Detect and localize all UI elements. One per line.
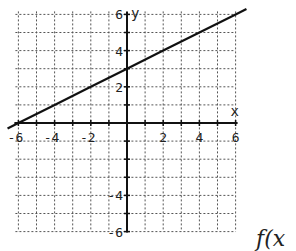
- x-tick-label: -6: [8, 130, 24, 145]
- y-tick-label: 2: [115, 80, 123, 95]
- grid-lines: [15, 11, 235, 231]
- coordinate-plane: -6-4-2246642-4-6yx: [0, 0, 296, 251]
- x-tick-label: 4: [195, 130, 203, 145]
- x-tick-label: -4: [44, 130, 60, 145]
- y-tick-label: 4: [115, 44, 123, 59]
- y-tick-label: 6: [115, 7, 123, 22]
- x-tick-label: 2: [159, 130, 167, 145]
- axes: [14, 11, 237, 232]
- y-tick-label: -4: [107, 188, 123, 203]
- function-label: f(x: [256, 226, 285, 251]
- x-axis-label: x: [230, 103, 238, 119]
- y-axis-label: y: [131, 5, 139, 21]
- x-tick-label: 6: [232, 130, 240, 145]
- x-tick-label: -2: [80, 130, 96, 145]
- y-tick-label: -6: [107, 225, 123, 240]
